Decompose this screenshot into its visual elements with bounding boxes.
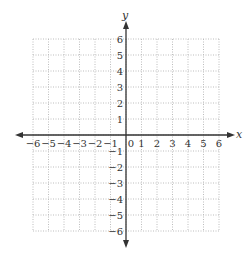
x-tick-label: −3 bbox=[72, 138, 87, 149]
y-tick-label: 2 bbox=[117, 98, 123, 109]
y-tick-label: 5 bbox=[117, 50, 123, 61]
x-tick-labels: −6−5−4−3−2−10123456 bbox=[26, 138, 223, 149]
y-tick-label: 4 bbox=[117, 66, 123, 77]
y-tick-label: −3 bbox=[108, 178, 123, 189]
x-tick-label: −5 bbox=[41, 138, 56, 149]
x-tick-label: 2 bbox=[154, 138, 160, 149]
y-tick-label: −4 bbox=[108, 194, 123, 205]
y-tick-label: −6 bbox=[108, 226, 123, 237]
coordinate-plane: −6−5−4−3−2−10123456 654321−1−2−3−4−5−6 x… bbox=[0, 0, 249, 256]
y-tick-label: 1 bbox=[117, 114, 123, 125]
y-tick-label: −5 bbox=[108, 210, 123, 221]
x-axis-right-arrow-icon bbox=[227, 132, 235, 138]
x-tick-label: 3 bbox=[169, 138, 175, 149]
x-tick-label: −6 bbox=[26, 138, 41, 149]
x-axis-left-arrow-icon bbox=[15, 132, 23, 138]
y-tick-label: 3 bbox=[117, 82, 123, 93]
x-tick-label: 4 bbox=[185, 138, 191, 149]
y-tick-label: −2 bbox=[108, 162, 123, 173]
y-tick-label: −1 bbox=[108, 146, 123, 157]
x-tick-label: 5 bbox=[200, 138, 206, 149]
x-tick-label: 0 bbox=[128, 138, 134, 149]
x-tick-label: 1 bbox=[138, 138, 144, 149]
y-tick-label: 6 bbox=[117, 34, 123, 45]
x-tick-label: 6 bbox=[216, 138, 222, 149]
x-tick-label: −4 bbox=[57, 138, 72, 149]
y-axis-up-arrow-icon bbox=[123, 21, 129, 29]
x-axis-label: x bbox=[236, 128, 243, 141]
y-axis-down-arrow-icon bbox=[123, 240, 129, 248]
y-axis-label: y bbox=[121, 9, 129, 22]
x-tick-label: −2 bbox=[88, 138, 103, 149]
